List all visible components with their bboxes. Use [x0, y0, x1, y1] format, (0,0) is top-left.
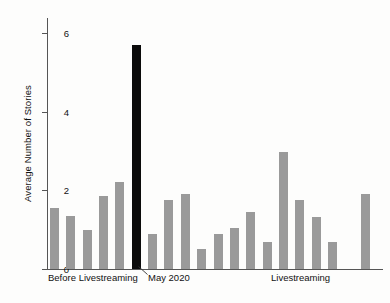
bar-series	[47, 18, 383, 270]
x-region-label-before: Before Livestreaming	[48, 272, 138, 283]
x-region-label-event: May 2020	[148, 272, 190, 283]
x-region-label-after: Livestreaming	[271, 272, 330, 283]
bar	[164, 200, 173, 269]
may-2020-leader-line	[138, 266, 148, 275]
bar	[148, 234, 157, 269]
plot-area: 0246	[47, 18, 383, 270]
chart-figure: Average Number of Stories 0246 Before Li…	[0, 0, 390, 303]
bar	[279, 152, 288, 269]
bar	[99, 196, 108, 269]
bar	[181, 194, 190, 269]
bar	[50, 208, 59, 269]
bar	[66, 216, 75, 269]
bar	[214, 234, 223, 269]
bar	[361, 194, 370, 269]
bar	[328, 242, 337, 269]
y-axis-title: Average Number of Stories	[22, 59, 33, 229]
bar	[263, 242, 272, 269]
bar	[312, 217, 321, 269]
bar	[246, 212, 255, 269]
bar	[295, 200, 304, 269]
bar	[115, 182, 124, 269]
bar	[197, 249, 206, 269]
bar	[230, 228, 239, 269]
bar	[83, 230, 92, 269]
bar-highlight-may-2020	[132, 45, 141, 269]
